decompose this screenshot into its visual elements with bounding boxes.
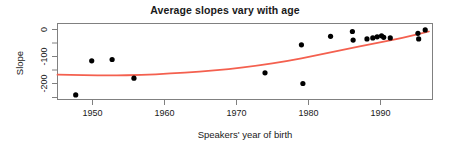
data-point <box>89 58 94 63</box>
y-tick-label-minus100: -100 <box>39 47 49 65</box>
data-point <box>350 29 355 34</box>
data-point <box>300 81 305 86</box>
chart-figure: Average slopes vary with age 0 -100 -200… <box>0 0 450 146</box>
data-point <box>73 92 78 97</box>
x-tick-label-1950: 1950 <box>82 108 102 118</box>
data-point <box>364 36 369 41</box>
y-axis-tick-labels: 0 -100 -200 <box>39 27 49 93</box>
y-tick-label-minus200: -200 <box>39 74 49 92</box>
data-point <box>328 34 333 39</box>
x-tick-label-1970: 1970 <box>226 108 246 118</box>
y-axis-title: Slope <box>14 51 25 75</box>
scatter-plot-svg: 0 -100 -200 Slope 1950 1960 1970 1980 19… <box>0 0 450 146</box>
y-axis-ticks <box>52 30 58 98</box>
data-points-group <box>73 27 428 97</box>
data-point <box>110 57 115 62</box>
data-point <box>415 31 420 36</box>
x-axis-ticks <box>93 100 381 106</box>
data-point <box>131 76 136 81</box>
x-tick-label-1990: 1990 <box>370 108 390 118</box>
x-axis-title: Speakers' year of birth <box>198 129 293 140</box>
data-point <box>381 35 386 40</box>
data-point <box>388 35 393 40</box>
x-axis-tick-labels: 1950 1960 1970 1980 1990 <box>82 108 390 118</box>
data-point <box>416 36 421 41</box>
data-point <box>423 27 428 32</box>
data-point <box>299 42 304 47</box>
data-point <box>351 37 356 42</box>
data-point <box>370 35 375 40</box>
data-point <box>262 70 267 75</box>
y-tick-label-0: 0 <box>39 27 49 32</box>
x-tick-label-1980: 1980 <box>298 108 318 118</box>
data-point <box>375 34 380 39</box>
x-tick-label-1960: 1960 <box>154 108 174 118</box>
